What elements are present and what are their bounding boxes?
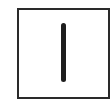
vertical-stroke-icon [61, 23, 66, 82]
glyph-label: | [0, 0, 1, 1]
